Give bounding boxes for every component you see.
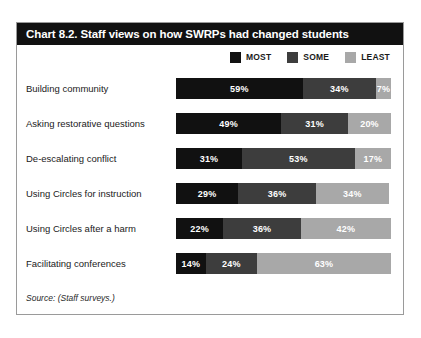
bar-segment-some: 31% bbox=[281, 113, 348, 134]
bar-segment-some: 24% bbox=[206, 253, 257, 274]
legend-item-least: LEAST bbox=[345, 52, 390, 63]
bar-segment-least: 17% bbox=[355, 148, 391, 169]
bar-segment-value: 34% bbox=[343, 189, 362, 199]
bar-row: De-escalating conflict31%53%17% bbox=[17, 141, 403, 176]
legend-item-label: MOST bbox=[246, 52, 271, 62]
bar-segment-value: 31% bbox=[305, 119, 324, 129]
bar-segment-most: 14% bbox=[176, 253, 206, 274]
bar-segment-value: 17% bbox=[364, 154, 383, 164]
bar-row-label: Using Circles for instruction bbox=[26, 176, 142, 211]
bar-segment-most: 49% bbox=[176, 113, 281, 134]
bar-segment-value: 7% bbox=[377, 84, 390, 94]
bar-row-label: Using Circles after a harm bbox=[26, 211, 136, 246]
legend-swatch-icon bbox=[287, 52, 298, 63]
legend-swatch-icon bbox=[345, 52, 356, 63]
bar-segment-value: 59% bbox=[230, 84, 249, 94]
bar-segment-value: 53% bbox=[289, 154, 308, 164]
bar-segment-least: 42% bbox=[301, 218, 391, 239]
bar-segment-value: 24% bbox=[222, 259, 241, 269]
bar-row-label: Facilitating conferences bbox=[26, 246, 126, 281]
bar-segment-value: 34% bbox=[330, 84, 349, 94]
bar-row: Building community59%34%7% bbox=[17, 71, 403, 106]
bar-segment-least: 7% bbox=[376, 78, 391, 99]
bar-segment-value: 20% bbox=[360, 119, 379, 129]
bar-row: Asking restorative questions49%31%20% bbox=[17, 106, 403, 141]
bar-segment-value: 14% bbox=[182, 259, 201, 269]
legend-item-label: LEAST bbox=[361, 52, 390, 62]
bar-segment-some: 34% bbox=[303, 78, 376, 99]
bar-segment-value: 42% bbox=[337, 224, 356, 234]
bar-segment-value: 36% bbox=[253, 224, 272, 234]
bar-segment-most: 22% bbox=[176, 218, 223, 239]
bar-segment-least: 63% bbox=[257, 253, 391, 274]
chart-plot-area: Building community59%34%7%Asking restora… bbox=[17, 71, 403, 281]
bar-row-label: Building community bbox=[26, 71, 108, 106]
bar-segment-some: 36% bbox=[223, 218, 300, 239]
bar-segment-some: 53% bbox=[242, 148, 355, 169]
page-title: Chart 8.2. Staff views on how SWRPs had … bbox=[26, 23, 349, 45]
stacked-bar: 59%34%7% bbox=[176, 78, 391, 99]
bar-segment-most: 29% bbox=[176, 183, 238, 204]
bar-segment-value: 22% bbox=[190, 224, 209, 234]
bar-segment-least: 20% bbox=[348, 113, 391, 134]
bar-segment-value: 36% bbox=[268, 189, 287, 199]
chart-title-bar: Chart 8.2. Staff views on how SWRPs had … bbox=[17, 23, 403, 45]
stacked-bar: 29%36%34% bbox=[176, 183, 391, 204]
bar-row: Using Circles after a harm22%36%42% bbox=[17, 211, 403, 246]
legend-item-some: SOME bbox=[287, 52, 329, 63]
bar-segment-value: 29% bbox=[198, 189, 217, 199]
bar-row-label: De-escalating conflict bbox=[26, 141, 116, 176]
chart-container: Chart 8.2. Staff views on how SWRPs had … bbox=[16, 22, 404, 315]
legend-item-label: SOME bbox=[303, 52, 329, 62]
source-note: Source: (Staff surveys.) bbox=[26, 293, 115, 303]
bar-segment-least: 34% bbox=[316, 183, 389, 204]
bar-row: Facilitating conferences14%24%63% bbox=[17, 246, 403, 281]
bar-segment-value: 63% bbox=[315, 259, 334, 269]
bar-segment-most: 31% bbox=[176, 148, 242, 169]
legend-swatch-icon bbox=[230, 52, 241, 63]
stacked-bar: 22%36%42% bbox=[176, 218, 391, 239]
legend-item-most: MOST bbox=[230, 52, 271, 63]
stacked-bar: 14%24%63% bbox=[176, 253, 391, 274]
bar-row-label: Asking restorative questions bbox=[26, 106, 145, 141]
bar-segment-value: 49% bbox=[219, 119, 238, 129]
bar-segment-value: 31% bbox=[200, 154, 219, 164]
bar-segment-some: 36% bbox=[238, 183, 315, 204]
chart-legend: MOSTSOMELEAST bbox=[17, 45, 403, 69]
stacked-bar: 31%53%17% bbox=[176, 148, 391, 169]
bar-row: Using Circles for instruction29%36%34% bbox=[17, 176, 403, 211]
stacked-bar: 49%31%20% bbox=[176, 113, 391, 134]
bar-segment-most: 59% bbox=[176, 78, 303, 99]
